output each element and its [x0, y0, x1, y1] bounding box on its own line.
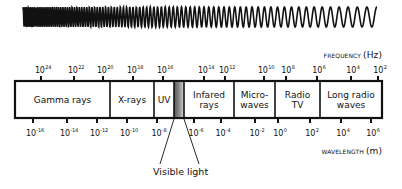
band-label: Gamma rays — [15, 82, 110, 117]
frequency-tick-label: 102 — [373, 64, 386, 75]
wavelength-tick-label: 10-2 — [250, 127, 265, 138]
frequency-tick-label: 1014 — [198, 64, 214, 75]
visible-light-band — [174, 82, 184, 117]
wave-icon — [23, 7, 377, 27]
wavelength-tick-label: 104 — [336, 127, 349, 138]
wavelength-axis-unit: (m) — [366, 146, 382, 156]
wavelength-tick-label: 106 — [366, 127, 379, 138]
band-label: UV — [154, 82, 174, 117]
band-label: X-rays — [110, 82, 154, 117]
frequency-axis-title: FREQUENCY (Hz) — [324, 50, 382, 60]
frequency-tick-label: 1024 — [35, 64, 51, 75]
wavelength-tick-label: 10-8 — [152, 127, 167, 138]
wavelength-tick-label: 10-10 — [120, 127, 138, 138]
callout-line-right — [184, 119, 199, 164]
band-label: Radio TV — [275, 82, 320, 117]
wavelength-tick-label: 10-6 — [189, 127, 204, 138]
wavelength-tick-label: 10-12 — [90, 127, 108, 138]
band-label: Infared rays — [184, 82, 234, 117]
wavelength-tick-label: 100 — [273, 127, 286, 138]
frequency-tick-label: 106 — [312, 64, 325, 75]
wavelength-axis-label: WAVELENGTH — [321, 148, 363, 155]
wavelength-tick-label: 10-16 — [26, 127, 44, 138]
visible-light-callout: Visible light — [153, 166, 208, 177]
frequency-tick-label: 1010 — [258, 64, 274, 75]
frequency-tick-label: 1012 — [219, 64, 235, 75]
frequency-tick-label: 1020 — [97, 64, 113, 75]
band-label: Long radio waves — [320, 82, 382, 117]
frequency-tick-label: 1016 — [157, 64, 173, 75]
callout-line-left — [160, 119, 174, 164]
wavelength-tick-label: 10-4 — [216, 127, 231, 138]
wavelength-tick-label: 10-14 — [60, 127, 78, 138]
frequency-axis-unit: (Hz) — [363, 50, 382, 60]
wavelength-tick-label: 102 — [305, 127, 318, 138]
frequency-axis-label: FREQUENCY — [324, 52, 361, 59]
frequency-tick-label: 1022 — [68, 64, 84, 75]
frequency-tick-label: 1018 — [127, 64, 143, 75]
band-label: Micro- waves — [234, 82, 275, 117]
frequency-tick-label: 104 — [346, 64, 359, 75]
wavelength-axis-title: WAVELENGTH (m) — [321, 146, 382, 156]
frequency-tick-label: 108 — [281, 64, 294, 75]
